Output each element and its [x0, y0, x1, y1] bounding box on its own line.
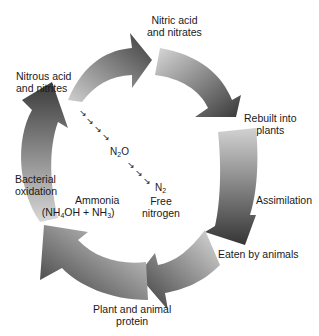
arrow-nitrous-to-nitric: [68, 33, 152, 102]
formula-part: O: [121, 146, 129, 157]
label-line: nitrogen: [142, 207, 180, 219]
formula-part: ): [111, 206, 115, 218]
label-line: Nitric acid: [147, 14, 202, 26]
label-eaten-by-animals: Eaten by animals: [218, 248, 299, 260]
label-line: and nitrates: [147, 26, 202, 38]
arrow-plants-to-animals: [205, 128, 257, 245]
label-line: Plant and animal: [93, 303, 171, 315]
label-line: and nitrites: [16, 82, 71, 94]
label-line: plants: [244, 124, 297, 136]
label-rebuilt-into-plants: Rebuilt into plants: [244, 112, 297, 136]
ammonia-formula: (NH4OH + NH3): [37, 206, 119, 222]
formula-sub: 2: [162, 187, 166, 194]
escape-arrow-icon: ↘: [127, 160, 135, 170]
escape-arrow-icon: ↘: [143, 176, 151, 186]
escape-arrow-icon: ↘: [135, 168, 143, 178]
label-line: Bacterial: [15, 173, 57, 185]
nitrogen-cycle-diagram: [0, 0, 319, 336]
arrow-nitric-to-plants: [155, 48, 241, 117]
formula-part: (NH: [42, 206, 61, 218]
label-bacterial-oxidation: Bacterial oxidation: [15, 173, 57, 197]
label-nitric-acid: Nitric acid and nitrates: [147, 14, 202, 38]
escape-arrow-icon: ↘: [86, 116, 94, 126]
arrow-animals-to-protein: [138, 230, 220, 310]
label-plant-animal-protein: Plant and animal protein: [93, 303, 171, 327]
escape-arrow-icon: ↘: [102, 132, 110, 142]
escape-arrow-icon: ↘: [94, 124, 102, 134]
label-nitrous-acid: Nitrous acid and nitrites: [16, 70, 71, 94]
formula-part: OH + NH: [64, 206, 107, 218]
label-line: Rebuilt into: [244, 112, 297, 124]
label-line: oxidation: [15, 185, 57, 197]
label-ammonia: Ammonia (NH4OH + NH3): [37, 194, 119, 222]
label-line: Free: [142, 195, 180, 207]
label-assimilation: Assimilation: [256, 194, 312, 206]
arrow-protein-to-ammonia: [40, 225, 148, 300]
label-line: protein: [93, 315, 171, 327]
label-free-nitrogen: Free nitrogen: [142, 195, 180, 219]
label-n2o: N2O: [110, 146, 129, 161]
label-line: Nitrous acid: [16, 70, 71, 82]
